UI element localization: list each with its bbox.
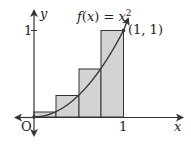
y-axis-label: y [39,6,48,21]
x-tick-label: 1 [119,119,127,134]
function-label: f(x) = x2 [76,8,132,24]
point-label: (1, 1) [128,22,163,37]
riemann-sum-diagram: y x O 1 1 (1, 1) f(x) = x2 [0,0,191,150]
riemann-rectangles [34,31,124,118]
x-axis-label: x [174,119,182,134]
origin-label: O [21,119,32,134]
origin-point [32,115,36,119]
point-1-1 [122,29,126,33]
y-tick-label: 1 [24,23,32,38]
rectangle-3 [79,69,101,117]
rectangle-4 [101,31,124,118]
